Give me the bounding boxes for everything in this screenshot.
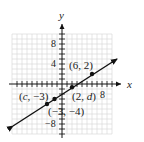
y-tick-8: 8 [51, 38, 56, 49]
y-axis-label: y [58, 9, 64, 21]
y-tick-neg8: −8 [45, 118, 56, 129]
point-6-2 [90, 72, 94, 76]
y-tick-4: 4 [51, 58, 56, 69]
point-2-d [70, 85, 74, 89]
point-c-neg3 [52, 97, 56, 101]
coordinate-plane-figure: x y 8 4 −8 8 (6, 2) (2, d) (−3, −4) (c, … [0, 0, 144, 142]
x-tick-8: 8 [100, 89, 105, 100]
label-6-2: (6, 2) [69, 59, 93, 72]
x-axis-label: x [126, 78, 132, 90]
label-neg3-neg4: (−3, −4) [48, 105, 85, 118]
graph-svg: x y 8 4 −8 8 (6, 2) (2, d) (−3, −4) (c, … [0, 0, 144, 142]
label-c-neg3: (c, −3) [19, 90, 49, 103]
label-2-d: (2, d) [72, 90, 96, 103]
